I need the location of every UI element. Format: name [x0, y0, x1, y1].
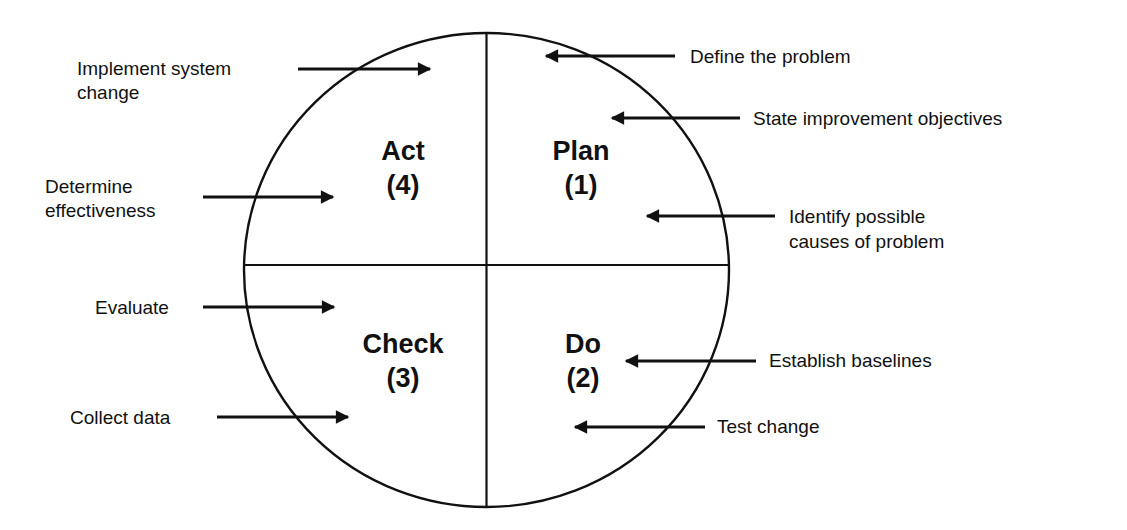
- annotation-implement-system-change: Implement system change: [77, 58, 430, 103]
- quadrant-check: Check (3): [362, 329, 444, 393]
- svg-text:State improvement objectives: State improvement objectives: [753, 108, 1002, 129]
- svg-text:Establish baselines: Establish baselines: [769, 350, 932, 371]
- annotation-define-the-problem: Define the problem: [546, 46, 851, 67]
- quadrant-plan-name: Plan: [552, 136, 609, 166]
- annotation-evaluate: Evaluate: [95, 297, 334, 318]
- pdca-diagram: Act (4) Plan (1) Check (3) Do (2) Implem…: [0, 0, 1127, 530]
- annotation-identify-possible-causes: Identify possible causes of problem: [647, 206, 944, 252]
- quadrant-check-name: Check: [362, 329, 444, 359]
- svg-text:causes of problem: causes of problem: [789, 231, 944, 252]
- annotation-state-improvement-objectives: State improvement objectives: [612, 108, 1002, 129]
- quadrant-do-name: Do: [565, 329, 601, 359]
- svg-text:Implement system: Implement system: [77, 58, 231, 79]
- svg-text:effectiveness: effectiveness: [45, 200, 156, 221]
- quadrant-act: Act (4): [381, 136, 425, 200]
- quadrant-plan: Plan (1): [552, 136, 609, 200]
- annotation-test-change: Test change: [575, 416, 819, 437]
- svg-text:Determine: Determine: [45, 176, 133, 197]
- svg-text:Identify possible: Identify possible: [789, 206, 925, 227]
- quadrant-act-number: (4): [387, 170, 420, 200]
- quadrant-do-number: (2): [567, 363, 600, 393]
- svg-text:Collect data: Collect data: [70, 407, 171, 428]
- annotation-establish-baselines: Establish baselines: [626, 350, 932, 371]
- annotation-collect-data: Collect data: [70, 407, 348, 428]
- quadrant-act-name: Act: [381, 136, 425, 166]
- svg-text:Evaluate: Evaluate: [95, 297, 169, 318]
- quadrant-plan-number: (1): [565, 170, 598, 200]
- svg-text:Test change: Test change: [717, 416, 819, 437]
- svg-text:Define the problem: Define the problem: [690, 46, 851, 67]
- quadrant-check-number: (3): [387, 363, 420, 393]
- svg-text:change: change: [77, 82, 139, 103]
- quadrant-do: Do (2): [565, 329, 601, 393]
- annotation-determine-effectiveness: Determine effectiveness: [45, 176, 333, 221]
